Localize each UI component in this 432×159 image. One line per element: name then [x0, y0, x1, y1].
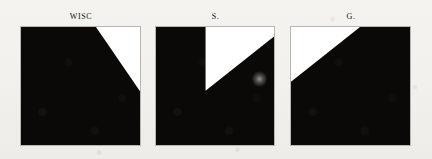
panel-title-wisc: WISC: [20, 12, 142, 22]
panel-title-g: G.: [290, 12, 412, 22]
panel-group-wisc: WISC: [20, 12, 142, 148]
panel-image-g: [290, 26, 411, 146]
panel-canvas-s: [156, 27, 274, 145]
panel-image-wisc: [20, 26, 141, 146]
panel-image-s: [155, 26, 275, 146]
panel-group-s: S.: [155, 12, 276, 148]
figure-root: WISC S. G.: [0, 0, 432, 159]
panel-canvas-g: [291, 27, 410, 146]
panel-group-g: G.: [290, 12, 412, 148]
panel-canvas-wisc: [21, 27, 140, 146]
panel-title-s: S.: [155, 12, 276, 22]
